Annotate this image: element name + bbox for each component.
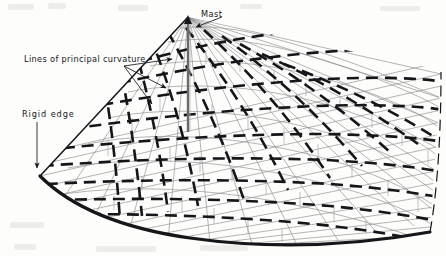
label-rigid-edge: Rigid edge	[22, 110, 75, 118]
label-lines-of-principal-curvature: Lines of principal curvature	[24, 55, 146, 63]
cable-net-roof-diagram	[0, 0, 446, 256]
cable-net-grid	[30, 17, 441, 248]
label-mast: Mast	[201, 10, 223, 18]
